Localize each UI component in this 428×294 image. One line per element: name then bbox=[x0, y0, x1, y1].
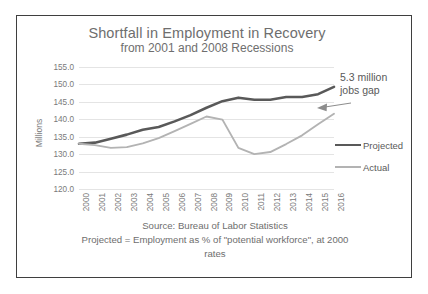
series-line-projected bbox=[79, 87, 334, 144]
x-axis-tick-label: 2000 bbox=[82, 193, 91, 211]
x-axis-tick-label: 2004 bbox=[146, 193, 155, 211]
legend-label: Actual bbox=[363, 162, 389, 173]
legend-swatch-icon bbox=[335, 144, 361, 147]
legend-item-projected[interactable]: Projected bbox=[335, 134, 415, 156]
annotation-line-2: jobs gap bbox=[340, 84, 412, 97]
y-axis-tick-label: 135.0 bbox=[54, 132, 75, 141]
x-axis-tick-label: 2014 bbox=[305, 193, 314, 211]
x-axis-tick-label: 2012 bbox=[273, 193, 282, 211]
legend-item-actual[interactable]: Actual bbox=[335, 156, 415, 178]
chart-subtitle: from 2001 and 2008 Recessions bbox=[57, 42, 357, 55]
series-line-actual bbox=[79, 114, 334, 154]
x-axis-tick-label: 2007 bbox=[194, 193, 203, 211]
x-axis-tick-label: 2005 bbox=[162, 193, 171, 211]
plot-area: 155.0150.0145.0140.0135.0130.0125.0120.0… bbox=[79, 67, 334, 189]
chart-title-block: Shortfall in Employment in Recovery from… bbox=[57, 25, 357, 56]
y-axis-tick-label: 145.0 bbox=[54, 97, 75, 106]
y-axis-tick-label: 120.0 bbox=[54, 185, 75, 194]
annotation-line-1: 5.3 million bbox=[340, 71, 412, 84]
y-axis-tick-label: 125.0 bbox=[54, 167, 75, 176]
y-axis-tick-label: 155.0 bbox=[54, 63, 75, 72]
x-axis-tick-label: 2009 bbox=[225, 193, 234, 211]
x-axis-tick-label: 2006 bbox=[178, 193, 187, 211]
x-axis-tick-label: 2015 bbox=[321, 193, 330, 211]
x-axis-tick-label: 2010 bbox=[241, 193, 250, 211]
x-axis-tick-label: 2001 bbox=[98, 193, 107, 211]
chart-title: Shortfall in Employment in Recovery bbox=[57, 25, 357, 41]
x-axis-tick-label: 2016 bbox=[337, 193, 346, 211]
y-axis-tick-label: 150.0 bbox=[54, 80, 75, 89]
footnote-definition-line-2: rates bbox=[31, 247, 399, 261]
legend-label: Projected bbox=[363, 140, 403, 151]
y-axis-tick-label: 130.0 bbox=[54, 150, 75, 159]
chart-footnotes: Source: Bureau of Labor Statistics Proje… bbox=[31, 219, 399, 261]
x-axis-tick-label: 2011 bbox=[257, 193, 266, 211]
legend-swatch-icon bbox=[335, 166, 361, 168]
x-axis-tick-label: 2003 bbox=[130, 193, 139, 211]
x-axis-tick-label: 2002 bbox=[114, 193, 123, 211]
footnote-definition-line-1: Projected = Employment as % of "potentia… bbox=[31, 233, 399, 247]
x-axis-tick-label: 2013 bbox=[289, 193, 298, 211]
chart-container: Shortfall in Employment in Recovery from… bbox=[16, 15, 412, 278]
chart-inner: Shortfall in Employment in Recovery from… bbox=[17, 16, 411, 277]
chart-legend: ProjectedActual bbox=[335, 134, 415, 178]
gridline bbox=[79, 189, 334, 190]
series-lines bbox=[79, 67, 334, 189]
jobs-gap-annotation: 5.3 million jobs gap bbox=[340, 71, 412, 97]
footnote-source: Source: Bureau of Labor Statistics bbox=[31, 219, 399, 233]
y-axis-tick-label: 140.0 bbox=[54, 115, 75, 124]
annotation-arrow-icon bbox=[313, 94, 353, 116]
x-axis-tick-label: 2008 bbox=[210, 193, 219, 211]
y-axis-title: Millions bbox=[34, 103, 44, 163]
